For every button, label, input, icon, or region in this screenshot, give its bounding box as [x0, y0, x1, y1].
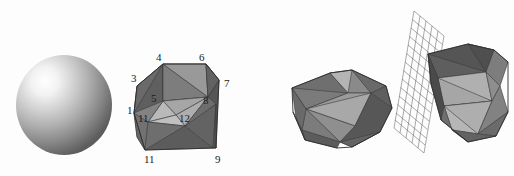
vertex-label-11-inner: 11: [138, 113, 149, 124]
polyhedron-back: [428, 44, 508, 142]
vertex-label-12: 12: [179, 113, 190, 124]
vertex-label-8: 8: [203, 95, 209, 106]
vertex-label-4: 4: [156, 52, 162, 63]
vertex-label-9: 9: [215, 154, 221, 165]
vertex-label-6: 6: [199, 52, 205, 63]
figure-canvas: [0, 0, 514, 176]
vertex-label-11: 11: [144, 154, 155, 165]
labeled-polyhedron: [134, 64, 219, 150]
sphere-panel: [16, 55, 112, 155]
polyhedron-front: [292, 70, 392, 148]
vertex-label-7: 7: [224, 78, 230, 89]
vertex-label-3: 3: [131, 73, 137, 84]
shaded-sphere: [16, 55, 112, 155]
vertex-label-5: 5: [151, 93, 157, 104]
vertex-label-1: 1: [127, 105, 133, 116]
